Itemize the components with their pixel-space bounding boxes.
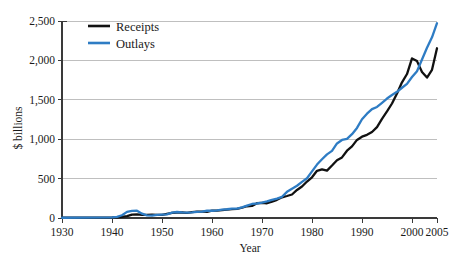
x-axis-tick-labels: 193019401950196019701980199020002005 [51,226,449,238]
y-axis-tick-labels: 05001,0001,5002,0002,500 [29,15,55,224]
y-tick-label: 500 [38,173,56,185]
data-series [62,23,437,218]
x-axis-title: Year [239,242,260,254]
y-tick-label: 1,500 [29,94,55,107]
x-tick-label: 2005 [426,226,449,238]
chart-canvas: 05001,0001,5002,0002,500 193019401950196… [0,0,460,265]
x-tick-label: 1940 [101,226,124,238]
x-tick-label: 1960 [201,226,224,238]
federal-receipts-outlays-chart: 05001,0001,5002,0002,500 193019401950196… [0,0,460,265]
y-axis-title: $ billions [12,106,24,150]
x-tick-label: 1950 [151,226,174,238]
y-tick-label: 1,000 [29,133,55,146]
legend-label-receipts: Receipts [116,20,159,34]
x-tick-label: 1970 [251,226,274,238]
y-tick-label: 2,500 [29,15,55,28]
chart-legend: ReceiptsOutlays [88,20,159,51]
series-line-receipts [62,48,437,217]
x-tick-label: 1990 [351,226,374,238]
x-tick-label: 1980 [301,226,324,238]
y-tick-label: 0 [49,212,55,224]
y-tick-label: 2,000 [29,54,55,67]
legend-label-outlays: Outlays [116,37,155,51]
x-tick-label: 1930 [51,226,74,238]
x-tick-label: 2000 [401,226,424,238]
